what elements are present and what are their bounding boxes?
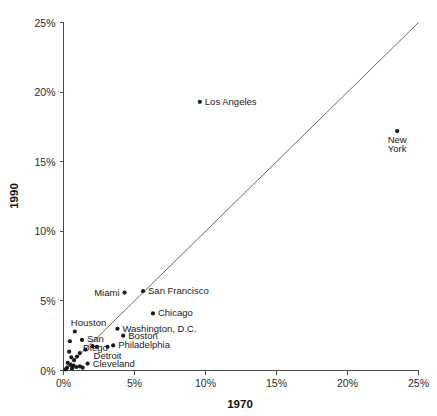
- point-label: Miami: [94, 287, 119, 298]
- data-point: [64, 367, 68, 371]
- data-point-new-york: [395, 129, 399, 133]
- data-point-philadelphia: [111, 343, 115, 347]
- x-tick-label: 5%: [127, 377, 142, 389]
- data-point-miami: [122, 290, 126, 294]
- data-point-cleveland: [86, 361, 90, 365]
- data-points-group: Los AngelesNewYorkMiamiSan FranciscoChic…: [64, 96, 407, 372]
- reference-line-group: [64, 23, 419, 371]
- chart-canvas: 0%5%10%15%20%25% 0%5%10%15%20%25% Los An…: [0, 0, 437, 416]
- data-point: [74, 365, 78, 369]
- point-label: Cleveland: [93, 358, 135, 369]
- data-point: [95, 345, 99, 349]
- data-point-chicago: [151, 311, 155, 315]
- y-tick-label: 15%: [34, 156, 55, 168]
- x-tick-label: 25%: [408, 377, 429, 389]
- y-axis-title: 1990: [8, 183, 20, 209]
- identity-reference-line: [64, 23, 419, 371]
- data-point-san-francisco: [141, 289, 145, 293]
- scatter-chart: 0%5%10%15%20%25% 0%5%10%15%20%25% Los An…: [0, 0, 437, 416]
- x-tick-label: 10%: [195, 377, 216, 389]
- point-label: Houston: [71, 317, 106, 328]
- point-label: Los Angeles: [205, 96, 257, 107]
- x-axis-ticks: 0%5%10%15%20%25%: [56, 371, 429, 389]
- y-tick-label: 5%: [40, 295, 55, 307]
- data-point: [75, 354, 79, 358]
- data-point-boston: [121, 334, 125, 338]
- data-point: [83, 348, 87, 352]
- data-point: [70, 366, 74, 370]
- point-label: San Francisco: [148, 285, 209, 296]
- data-point: [72, 358, 76, 362]
- data-point-los-angeles: [198, 100, 202, 104]
- y-tick-label: 20%: [34, 86, 55, 98]
- x-tick-label: 20%: [337, 377, 358, 389]
- x-tick-label: 0%: [56, 377, 71, 389]
- data-point-detroit: [105, 345, 109, 349]
- y-tick-label: 25%: [34, 17, 55, 29]
- data-point: [78, 351, 82, 355]
- data-point: [81, 366, 85, 370]
- data-point: [68, 339, 72, 343]
- data-point-houston: [73, 329, 77, 333]
- y-tick-label: 0%: [40, 365, 55, 377]
- y-axis-ticks: 0%5%10%15%20%25%: [34, 17, 63, 377]
- data-point-washington-d-c: [115, 327, 119, 331]
- y-tick-label: 10%: [34, 225, 55, 237]
- point-label: Chicago: [158, 307, 193, 318]
- point-label: York: [388, 143, 407, 154]
- point-label: Philadelphia: [118, 339, 170, 350]
- x-axis-title: 1970: [227, 398, 253, 410]
- data-point: [67, 350, 71, 354]
- data-point: [91, 344, 95, 348]
- x-tick-label: 15%: [266, 377, 287, 389]
